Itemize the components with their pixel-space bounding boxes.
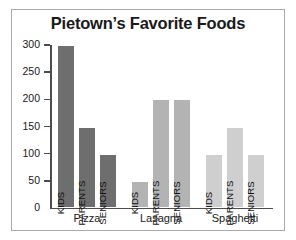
y-axis-tick-label: 250 bbox=[22, 65, 40, 77]
bar-spaghetti-parents[interactable]: PARENTS bbox=[226, 127, 244, 209]
chart-figure: Pietown’s Favorite Foods 050100150200250… bbox=[0, 0, 296, 240]
x-axis-label-pizza: Pizza bbox=[50, 212, 124, 224]
plot-area: KIDSPARENTSSENIORSKIDSPARENTSSENIORSKIDS… bbox=[50, 45, 272, 208]
y-axis-tick-label: 300 bbox=[22, 38, 40, 50]
bar-lasagna-parents[interactable]: PARENTS bbox=[152, 99, 170, 208]
y-axis-tick-label: 0 bbox=[34, 201, 40, 213]
bar-pizza-kids[interactable]: KIDS bbox=[57, 45, 75, 208]
y-axis-tick-label: 150 bbox=[22, 120, 40, 132]
x-axis-label-spaghetti: Spaghetti bbox=[198, 212, 272, 224]
y-axis-tick-label: 200 bbox=[22, 92, 40, 104]
bar-spaghetti-seniors[interactable]: SENIORS bbox=[247, 154, 265, 208]
chart-title: Pietown’s Favorite Foods bbox=[11, 14, 285, 33]
y-axis-tick-label: 100 bbox=[22, 147, 40, 159]
bar-pizza-parents[interactable]: PARENTS bbox=[78, 127, 96, 209]
y-axis-tick-label: 50 bbox=[28, 174, 40, 186]
bar-lasagna-seniors[interactable]: SENIORS bbox=[173, 99, 191, 208]
bar-lasagna-kids[interactable]: KIDS bbox=[131, 181, 149, 208]
bar-pizza-seniors[interactable]: SENIORS bbox=[99, 154, 117, 208]
bar-spaghetti-kids[interactable]: KIDS bbox=[205, 154, 223, 208]
x-axis-label-lasagna: Lasagna bbox=[124, 212, 198, 224]
